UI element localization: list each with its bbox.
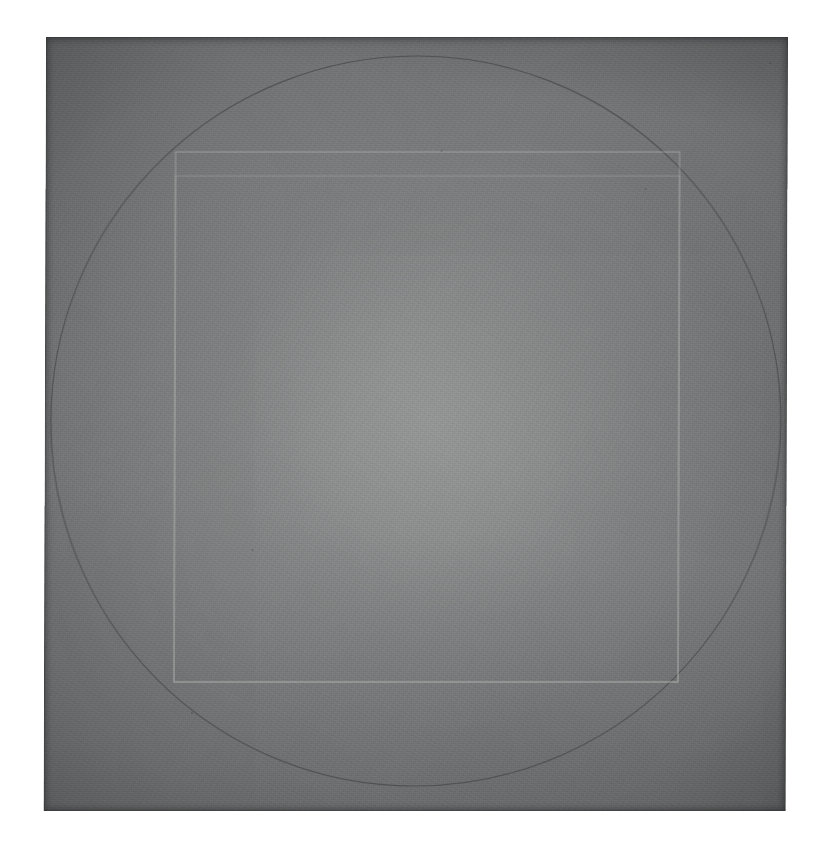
artwork-canvas: [0, 0, 829, 850]
surface-speck: [191, 712, 193, 714]
surface-speck: [769, 62, 771, 64]
painted-panel: [44, 37, 788, 811]
drawn-geometry: [44, 37, 788, 811]
inner-square: [174, 176, 680, 682]
surface-speck: [441, 150, 443, 152]
graphite-circle: [50, 56, 782, 786]
surface-speck: [645, 188, 647, 190]
geometry-svg: [44, 37, 788, 811]
outer-square: [174, 152, 680, 682]
surface-speck: [251, 549, 253, 551]
